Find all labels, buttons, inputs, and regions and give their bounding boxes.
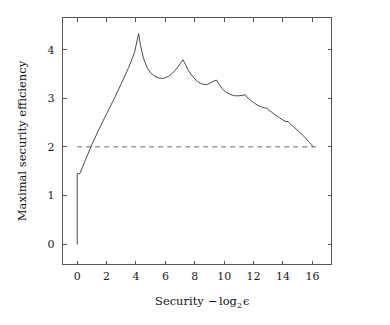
x-tick-label: 14 [276,270,290,283]
x-tick-label: 6 [162,270,169,283]
x-axis-tick-labels: 0246810121416 [74,270,320,283]
chart-figure: 0246810121416 01234 Security − log 2 ϵ M… [0,0,390,325]
x-tick-label: 10 [217,270,231,283]
x-tick-label: 16 [305,270,319,283]
x-axis-title-base: 2 [237,301,242,310]
x-axis-title-epsilon: ϵ [243,294,249,308]
y-tick-label: 3 [48,92,55,105]
x-axis-ticks [77,18,312,265]
y-tick-label: 1 [48,189,55,202]
y-tick-label: 0 [48,238,55,251]
x-axis-title-minus: − [208,294,218,308]
x-axis-title: Security − log 2 ϵ [155,294,249,310]
plot-frame [63,18,332,265]
x-tick-label: 12 [247,270,261,283]
x-tick-label: 2 [103,270,110,283]
security-efficiency-curve [77,34,313,245]
x-axis-title-lead: Security [155,294,204,308]
x-tick-label: 8 [191,270,198,283]
x-tick-label: 0 [74,270,81,283]
y-tick-label: 4 [48,44,55,57]
chart-plot-area: 0246810121416 01234 Security − log 2 ϵ M… [0,0,390,325]
y-axis-tick-labels: 01234 [48,44,55,251]
y-tick-label: 2 [48,141,55,154]
y-axis-title: Maximal security efficiency [15,60,29,221]
x-tick-label: 4 [132,270,139,283]
x-axis-title-log: log [219,294,238,308]
